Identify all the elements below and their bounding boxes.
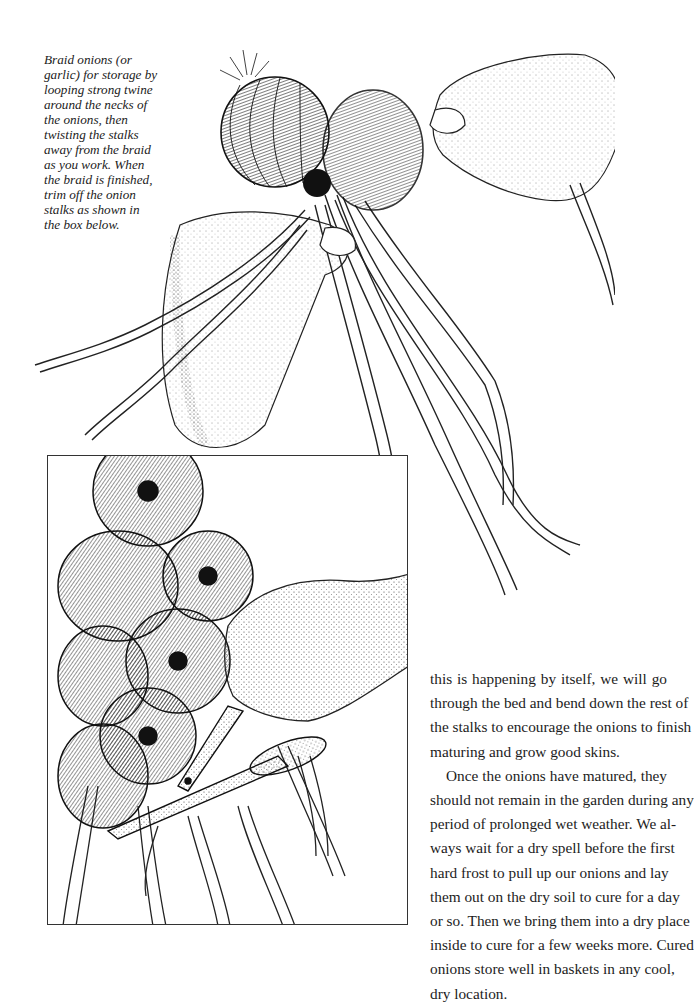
caption-line: around the necks of xyxy=(44,97,162,112)
caption-line: garlic) for storage by xyxy=(44,67,162,82)
body-line: maturing and grow good skins. xyxy=(430,740,667,764)
body-line: them out on the dry soil to cure for a d… xyxy=(430,885,667,909)
caption-line: the braid is finished, xyxy=(44,172,162,187)
body-line: this is happening by itself, we will go xyxy=(430,667,667,691)
caption-line: as you work. When xyxy=(44,157,162,172)
caption-line: twisting the stalks xyxy=(44,127,162,142)
caption-line: the onions, then xyxy=(44,112,162,127)
body-text: this is happening by itself, we will go … xyxy=(430,667,667,1006)
caption-line: stalks as shown in xyxy=(44,202,162,217)
body-line: should not remain in the garden during a… xyxy=(430,788,667,812)
caption-line: the box below. xyxy=(44,217,162,232)
inset-trimming-illustration xyxy=(47,455,408,925)
body-line: hard frost to pull up our onions and lay xyxy=(430,861,667,885)
figure-caption: Braid onions (or garlic) for storage by … xyxy=(44,52,162,232)
caption-line: Braid onions (or xyxy=(44,52,162,67)
body-line: period of prolonged wet weather. We al- xyxy=(430,812,667,836)
body-line: onions store well in baskets in any cool… xyxy=(430,957,667,981)
body-line: ways wait for a dry spell before the fir… xyxy=(430,836,667,860)
caption-line: looping strong twine xyxy=(44,82,162,97)
caption-line: away from the braid xyxy=(44,142,162,157)
body-line: the stalks to encourage the onions to fi… xyxy=(430,715,667,739)
body-line: through the bed and bend down the rest o… xyxy=(430,691,667,715)
body-line: Once the onions have matured, they xyxy=(430,764,667,788)
body-line: or so. Then we bring them into a dry pla… xyxy=(430,909,667,933)
caption-line: trim off the onion xyxy=(44,187,162,202)
body-line: inside to cure for a few weeks more. Cur… xyxy=(430,933,667,957)
body-line: dry location. xyxy=(430,982,667,1006)
